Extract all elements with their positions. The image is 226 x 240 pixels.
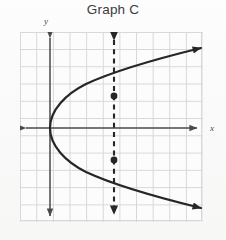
graph-figure: Graph C [0, 0, 226, 240]
parabola-upper-branch [50, 48, 201, 128]
lower-intersection-point [111, 157, 118, 164]
x-axis-label: x [210, 123, 214, 133]
upper-intersection-point [111, 93, 118, 100]
page-title: Graph C [0, 2, 226, 17]
parabola-lower-branch [50, 128, 201, 208]
coordinate-plane [20, 32, 203, 222]
y-axis-label: y [44, 16, 48, 26]
graph-vector-layer [20, 32, 203, 222]
